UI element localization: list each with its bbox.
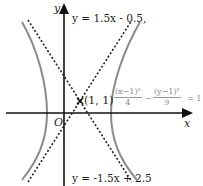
equation-term1: (x−1)² 4 xyxy=(114,87,142,108)
y-axis-label: y xyxy=(54,2,60,15)
hyperbola-left-branch xyxy=(22,22,47,180)
origin-label: O xyxy=(54,116,63,129)
equation-equals: = 1 xyxy=(187,94,201,103)
asymptote-positive-label: y = 1.5x - 0.5, xyxy=(72,12,146,24)
equation-term2: (y−1)² 9 xyxy=(153,87,181,108)
asymptote-negative-label: y = -1.5x + 2.5 xyxy=(72,172,152,184)
center-point-marker xyxy=(77,98,83,104)
y-axis-arrow-icon xyxy=(59,3,69,14)
x-axis-label: x xyxy=(184,117,190,130)
center-point-label: (1, 1) xyxy=(84,94,114,107)
equation-minus: − xyxy=(145,94,152,103)
